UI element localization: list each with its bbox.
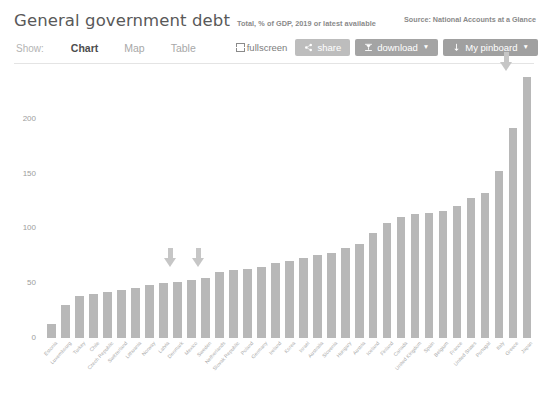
bar-slot xyxy=(285,64,294,338)
bar-slot xyxy=(145,64,154,338)
bar[interactable] xyxy=(425,213,434,338)
bar[interactable] xyxy=(509,128,518,338)
bar-slot xyxy=(257,64,266,338)
bar-slot xyxy=(369,64,378,338)
bar-slot xyxy=(523,64,532,338)
bar-slot xyxy=(187,64,196,338)
bar[interactable] xyxy=(467,198,476,338)
chevron-down-icon: ▼ xyxy=(523,44,529,51)
bar-slot xyxy=(243,64,252,338)
x-tick-label: Ireland xyxy=(267,340,282,356)
bar[interactable] xyxy=(299,258,308,338)
download-icon xyxy=(364,43,373,52)
bar[interactable] xyxy=(61,305,70,338)
chevron-down-icon: ▼ xyxy=(423,44,429,51)
bar-slot xyxy=(411,64,420,338)
x-tick-label: Belgium xyxy=(433,340,450,358)
bar-slot xyxy=(117,64,126,338)
y-tick-label: 0 xyxy=(32,333,36,342)
bar[interactable] xyxy=(453,206,462,338)
bar[interactable] xyxy=(75,296,84,338)
bar[interactable] xyxy=(173,282,182,338)
bar-slot xyxy=(355,64,364,338)
x-tick-label: Finland xyxy=(378,340,394,357)
bar[interactable] xyxy=(495,171,504,338)
source-note: Source: National Accounts at a Glance xyxy=(404,15,536,24)
bar[interactable] xyxy=(103,292,112,338)
pin-icon xyxy=(452,43,461,52)
view-switcher: Show: Chart Map Table xyxy=(16,42,209,54)
bar-slot xyxy=(495,64,504,338)
bar[interactable] xyxy=(257,267,266,338)
bar[interactable] xyxy=(229,270,238,338)
bar-slot xyxy=(75,64,84,338)
x-tick-label: Greece xyxy=(504,340,520,357)
bar-slot xyxy=(61,64,70,338)
bar[interactable] xyxy=(355,244,364,338)
page-title: General government debt xyxy=(14,11,230,30)
bars-area xyxy=(44,64,542,338)
bar[interactable] xyxy=(47,324,56,338)
tab-table[interactable]: Table xyxy=(158,42,209,54)
y-axis: 050100150200 xyxy=(0,64,44,354)
bar[interactable] xyxy=(397,217,406,338)
bar[interactable] xyxy=(117,290,126,338)
bar[interactable] xyxy=(481,193,490,338)
bar[interactable] xyxy=(145,285,154,338)
bar-slot xyxy=(313,64,322,338)
bar[interactable] xyxy=(201,278,210,338)
bar[interactable] xyxy=(313,255,322,338)
bar-slot xyxy=(327,64,336,338)
chart-page: General government debt Total, % of GDP,… xyxy=(0,0,548,411)
bar[interactable] xyxy=(131,288,140,338)
bar[interactable] xyxy=(439,211,448,338)
tab-chart[interactable]: Chart xyxy=(58,42,111,54)
share-button[interactable]: share xyxy=(295,39,350,56)
bar-slot xyxy=(173,64,182,338)
bar-slot xyxy=(509,64,518,338)
bar-slot xyxy=(47,64,56,338)
x-tick-label: Chile xyxy=(88,340,100,353)
bar[interactable] xyxy=(327,253,336,338)
tab-map[interactable]: Map xyxy=(111,42,157,54)
bar-slot xyxy=(271,64,280,338)
share-label: share xyxy=(317,42,341,53)
bar-slot xyxy=(341,64,350,338)
download-button[interactable]: download ▼ xyxy=(355,39,438,56)
download-label: download xyxy=(377,42,418,53)
x-tick-label: Japan xyxy=(520,340,534,354)
share-icon xyxy=(304,43,313,52)
x-tick-label: Austria xyxy=(351,340,366,356)
x-tick-label: Turkey xyxy=(71,340,86,356)
bar-slot xyxy=(131,64,140,338)
bar-slot xyxy=(201,64,210,338)
bar[interactable] xyxy=(341,248,350,338)
bar-slot xyxy=(425,64,434,338)
bar[interactable] xyxy=(243,269,252,338)
page-header: General government debt Total, % of GDP,… xyxy=(0,0,548,36)
bar[interactable] xyxy=(285,261,294,338)
bar[interactable] xyxy=(271,263,280,338)
chart-plot: 050100150200 EstoniaLuxembourgTurkeyChil… xyxy=(0,64,548,411)
x-tick-label: Iceland xyxy=(364,340,380,356)
bar-slot xyxy=(229,64,238,338)
bar[interactable] xyxy=(159,283,168,338)
view-toolbar: Show: Chart Map Table fullscreen share xyxy=(0,38,548,62)
pinboard-label: My pinboard xyxy=(465,42,517,53)
bar[interactable] xyxy=(89,294,98,338)
my-pinboard-button[interactable]: My pinboard ▼ xyxy=(443,39,538,56)
y-tick-label: 150 xyxy=(23,168,36,177)
bar[interactable] xyxy=(187,280,196,338)
bar[interactable] xyxy=(369,233,378,338)
bar-slot xyxy=(103,64,112,338)
bar[interactable] xyxy=(383,223,392,338)
bar-slot xyxy=(467,64,476,338)
bar[interactable] xyxy=(411,214,420,338)
bar-slot xyxy=(215,64,224,338)
fullscreen-icon xyxy=(236,43,245,52)
bar[interactable] xyxy=(215,272,224,338)
bar-slot xyxy=(159,64,168,338)
fullscreen-button[interactable]: fullscreen xyxy=(236,42,288,53)
bar-slot xyxy=(453,64,462,338)
bar[interactable] xyxy=(523,77,532,338)
